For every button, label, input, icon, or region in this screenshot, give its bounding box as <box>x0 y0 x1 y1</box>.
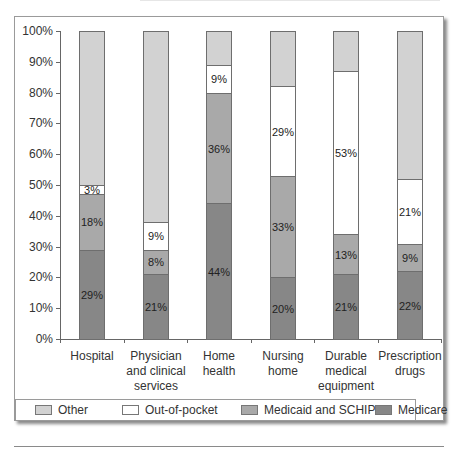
bar-segment-other <box>206 31 232 66</box>
x-tick <box>251 339 252 343</box>
legend-swatch <box>375 405 392 415</box>
bar-segment-medicare: 22% <box>397 271 423 340</box>
data-label: 36% <box>208 143 230 155</box>
y-tick-label: 70% <box>12 117 53 129</box>
category-label-line: medical <box>314 364 378 379</box>
bar-segment-other <box>143 31 169 223</box>
x-tick <box>124 339 125 343</box>
bar-segment-other <box>270 31 296 87</box>
legend-swatch <box>241 405 258 415</box>
data-label: 29% <box>81 289 103 301</box>
y-tick-label: 30% <box>12 241 53 253</box>
bar-segment-other <box>333 31 359 72</box>
bar-segment-medicaid-and-schip: 9% <box>397 244 423 273</box>
legend-swatch <box>122 405 139 415</box>
legend-item-out-of-pocket: Out-of-pocket <box>122 403 218 417</box>
data-label: 33% <box>272 221 294 233</box>
y-tick-label: 20% <box>12 271 53 283</box>
legend-swatch <box>35 405 52 415</box>
legend-item-medicare: Medicare <box>375 403 447 417</box>
y-tick <box>56 93 60 94</box>
bottom-rule <box>14 446 444 447</box>
data-label: 8% <box>148 256 164 268</box>
y-tick <box>56 154 60 155</box>
category-label-line: Nursing <box>251 349 315 364</box>
data-label: 9% <box>402 252 418 264</box>
x-tick <box>378 339 379 343</box>
y-tick-label: 100% <box>12 25 53 37</box>
bar-segment-other <box>397 31 423 180</box>
y-axis <box>60 31 61 340</box>
y-tick-label: 60% <box>12 148 53 160</box>
data-label: 53% <box>335 147 357 159</box>
y-tick-label: 90% <box>12 56 53 68</box>
y-tick <box>56 62 60 63</box>
data-label: 13% <box>335 249 357 261</box>
data-label: 9% <box>148 230 164 242</box>
legend-label: Other <box>58 403 88 417</box>
bar-segment-medicaid-and-schip: 33% <box>270 176 296 279</box>
bar-segment-out-of-pocket: 53% <box>333 71 359 235</box>
y-tick <box>56 247 60 248</box>
category-label-line: and clinical <box>124 364 188 379</box>
y-tick <box>56 31 60 32</box>
y-tick <box>56 123 60 124</box>
x-tick <box>187 339 188 343</box>
bar-segment-out-of-pocket: 9% <box>143 222 169 251</box>
category-label: Homehealth <box>187 349 251 379</box>
bar-segment-medicare: 29% <box>79 250 105 340</box>
category-label: Nursinghome <box>251 349 315 379</box>
category-label: Durablemedicalequipment <box>314 349 378 394</box>
bar-segment-medicare: 21% <box>333 274 359 340</box>
data-label: 44% <box>208 266 230 278</box>
x-tick <box>60 339 61 343</box>
bar-segment-medicare: 44% <box>206 203 232 340</box>
category-label-line: Hospital <box>60 349 124 364</box>
y-tick-label: 40% <box>12 210 53 222</box>
bar-segment-other <box>79 31 105 186</box>
category-label-line: Physician <box>124 349 188 364</box>
category-label-line: services <box>124 379 188 394</box>
legend-item-medicaid-and-schip: Medicaid and SCHIP <box>241 403 375 417</box>
bar-segment-out-of-pocket: 29% <box>270 86 296 176</box>
data-label: 9% <box>211 73 227 85</box>
y-tick-label: 0% <box>12 333 53 345</box>
data-label: 29% <box>272 126 294 138</box>
bar-segment-out-of-pocket: 3% <box>79 185 105 195</box>
data-label: 21% <box>335 301 357 313</box>
category-label-line: home <box>251 364 315 379</box>
bar-segment-medicaid-and-schip: 18% <box>79 194 105 250</box>
category-label: Physicianand clinicalservices <box>124 349 188 394</box>
data-label: 20% <box>272 303 294 315</box>
bar-segment-medicaid-and-schip: 13% <box>333 234 359 275</box>
legend-label: Out-of-pocket <box>145 403 218 417</box>
y-tick <box>56 277 60 278</box>
bar-segment-medicare: 21% <box>143 274 169 340</box>
y-tick <box>56 216 60 217</box>
legend-item-other: Other <box>35 403 88 417</box>
category-label-line: Prescription <box>378 349 442 364</box>
y-tick-label: 80% <box>12 87 53 99</box>
legend: OtherOut-of-pocketMedicaid and SCHIPMedi… <box>15 399 435 421</box>
category-label-line: health <box>187 364 251 379</box>
y-tick <box>56 185 60 186</box>
data-label: 21% <box>399 206 421 218</box>
top-rule <box>140 0 440 1</box>
data-label: 21% <box>145 301 167 313</box>
bar-segment-medicaid-and-schip: 36% <box>206 93 232 205</box>
category-label: Prescriptiondrugs <box>378 349 442 379</box>
y-tick-label: 50% <box>12 179 53 191</box>
category-label: Hospital <box>60 349 124 364</box>
category-label-line: equipment <box>314 379 378 394</box>
category-label-line: Durable <box>314 349 378 364</box>
bar-segment-out-of-pocket: 9% <box>206 65 232 94</box>
bar-segment-out-of-pocket: 21% <box>397 179 423 245</box>
category-label-line: drugs <box>378 364 442 379</box>
data-label: 22% <box>399 300 421 312</box>
data-label: 18% <box>81 216 103 228</box>
x-tick <box>441 339 442 343</box>
x-tick <box>314 339 315 343</box>
legend-label: Medicaid and SCHIP <box>264 403 375 417</box>
bar-segment-medicaid-and-schip: 8% <box>143 250 169 276</box>
legend-label: Medicare <box>398 403 447 417</box>
